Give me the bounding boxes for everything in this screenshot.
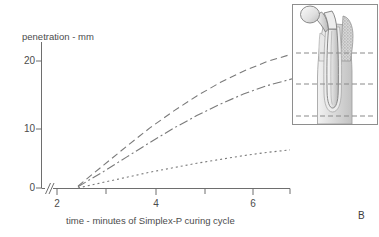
figure-panel-b: penetration - mm 20 10 0 2 4 6 time - mi… — [0, 0, 379, 237]
inset-illustration — [293, 5, 377, 124]
x-tick-label-4: 4 — [146, 199, 166, 209]
prosthesis-stem — [327, 29, 339, 108]
prosthesis-head — [301, 6, 320, 23]
inset-image-hip-prosthesis — [292, 4, 378, 125]
y-tick-label-20: 20 — [11, 56, 35, 66]
y-tick-label-10: 10 — [11, 124, 35, 134]
x-tick-label-2: 2 — [47, 199, 67, 209]
series-line-proximal-level — [78, 55, 290, 186]
data-series-layer — [78, 55, 292, 188]
series-line-distal-level — [78, 150, 290, 188]
greater-trochanter — [340, 16, 353, 61]
axis-break-icon — [46, 183, 55, 194]
panel-label: B — [358, 211, 365, 221]
series-line-mid-level — [78, 79, 292, 187]
x-tick-label-6: 6 — [243, 199, 263, 209]
x-axis-title: time - minutes of Simplex-P curing cycle — [66, 216, 235, 226]
y-tick-label-0: 0 — [11, 183, 35, 193]
y-axis-title: penetration - mm — [22, 32, 94, 42]
